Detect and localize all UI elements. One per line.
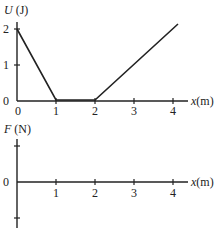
f-x-tick-label-1: 1	[53, 186, 59, 200]
potential-energy-chart: U (J) 2 1 0 0 1 2 3 4 x(m)	[3, 3, 214, 118]
f-y-axis-label: F (N)	[3, 122, 31, 136]
f-x-axis-label: x(m)	[190, 175, 214, 189]
u-y-tick-label-0: 0	[3, 94, 9, 108]
u-x-tick-label-4: 4	[170, 104, 176, 118]
u-x-axis-label: x(m)	[190, 94, 214, 108]
figure: U (J) 2 1 0 0 1 2 3 4 x(m) F (N) 0 1 2 3	[0, 0, 222, 233]
f-x-tick-label-3: 3	[131, 186, 137, 200]
u-curve	[17, 24, 178, 100]
u-x-tick-label-0: 0	[15, 104, 21, 118]
f-x-tick-label-4: 4	[170, 186, 176, 200]
u-y-tick-label-2: 2	[3, 22, 9, 36]
f-y-tick-label-0: 0	[3, 175, 9, 189]
f-x-tick-label-2: 2	[92, 186, 98, 200]
force-chart: F (N) 0 1 2 3 4 x(m)	[3, 122, 214, 228]
u-y-axis-label: U (J)	[4, 3, 28, 17]
u-x-tick-label-3: 3	[131, 104, 137, 118]
u-x-tick-label-1: 1	[53, 104, 59, 118]
u-y-tick-label-1: 1	[3, 58, 9, 72]
u-x-tick-label-2: 2	[92, 104, 98, 118]
